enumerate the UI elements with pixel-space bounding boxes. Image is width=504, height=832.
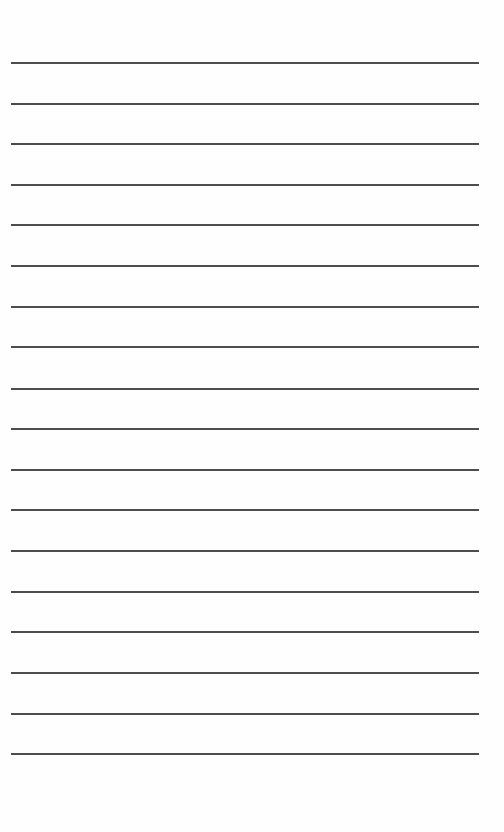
lined-paper-page [0,0,504,832]
ruled-line [11,306,479,308]
ruled-line [11,509,479,511]
ruled-line [11,103,479,105]
ruled-line [11,62,479,64]
ruled-line [11,631,479,633]
ruled-line [11,672,479,674]
ruled-line [11,428,479,430]
ruled-line [11,469,479,471]
ruled-line [11,143,479,145]
ruled-line [11,346,479,348]
ruled-line [11,224,479,226]
ruled-line [11,591,479,593]
ruled-line [11,550,479,552]
ruled-line [11,265,479,267]
ruled-line [11,713,479,715]
ruled-line [11,388,479,390]
ruled-line [11,184,479,186]
ruled-line [11,753,479,755]
